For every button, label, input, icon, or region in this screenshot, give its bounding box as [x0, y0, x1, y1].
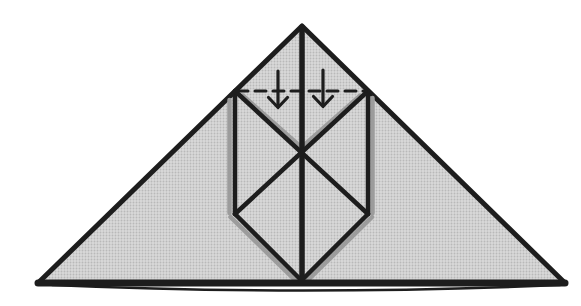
origami-diagram-canvas: [0, 0, 581, 306]
origami-step-diagram: [0, 0, 581, 306]
